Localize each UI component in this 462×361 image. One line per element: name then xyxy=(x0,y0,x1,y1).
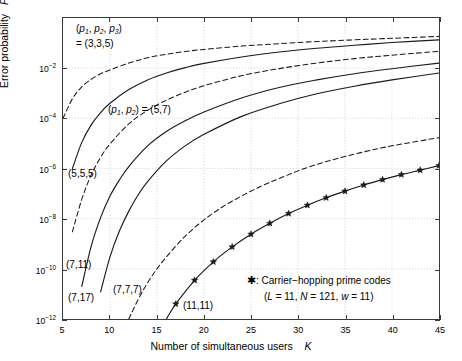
y-tick-mark xyxy=(62,118,67,119)
data-point-marker xyxy=(379,176,385,182)
y-tick-label: 10−8 xyxy=(39,214,56,224)
legend-line-2: (L = 11, N = 121, w = 11) xyxy=(247,289,391,305)
x-tick-mark-top xyxy=(440,17,441,22)
data-point-marker xyxy=(285,210,291,216)
annotation-555: (5,5,5) xyxy=(68,167,97,180)
x-tick-mark xyxy=(440,315,441,320)
x-tick-label: 15 xyxy=(137,326,177,335)
y-tick-mark-right xyxy=(435,68,440,69)
x-tick-mark xyxy=(157,315,158,320)
x-tick-label: 25 xyxy=(231,326,271,335)
y-tick-label: 10−2 xyxy=(39,63,56,73)
data-point-marker xyxy=(304,202,310,208)
x-tick-mark xyxy=(62,315,63,320)
x-axis-title: Number of simultaneous users K xyxy=(0,340,462,352)
x-tick-mark xyxy=(298,315,299,320)
annotation-p1p2: (p1, p2) = (5,7) xyxy=(108,103,171,118)
legend-label: Carrier−hopping prime codes xyxy=(262,275,391,286)
y-tick-mark xyxy=(62,68,67,69)
y-tick-mark xyxy=(62,169,67,170)
x-tick-mark-top xyxy=(204,17,205,22)
series-555 xyxy=(72,51,439,231)
x-tick-mark-top xyxy=(251,17,252,22)
y-tick-label: 10−4 xyxy=(39,113,56,123)
y-tick-mark-right xyxy=(435,118,440,119)
y-axis-title-text: Error probability xyxy=(0,14,10,88)
x-tick-label: 45 xyxy=(420,326,460,335)
x-tick-label: 30 xyxy=(278,326,318,335)
y-tick-mark-right xyxy=(435,320,440,321)
annotation-p1p2p3-line1: (p1, p2, p3) xyxy=(76,22,122,37)
data-point-marker xyxy=(361,182,367,188)
x-axis-title-text: Number of simultaneous users xyxy=(150,340,292,352)
x-tick-label: 10 xyxy=(89,326,129,335)
figure-root: 10−210−410−610−810−1010−12 5101520253035… xyxy=(0,0,462,361)
x-tick-mark xyxy=(346,315,347,320)
annotation-1111: (11,11) xyxy=(183,299,213,312)
x-tick-label: 40 xyxy=(373,326,413,335)
data-point-marker xyxy=(342,188,348,194)
y-tick-mark xyxy=(62,320,67,321)
x-tick-mark xyxy=(204,315,205,320)
legend: ✱: Carrier−hopping prime codes (L = 11, … xyxy=(247,272,391,305)
annotation-777: (7,7,7) xyxy=(113,283,142,296)
x-tick-mark-top xyxy=(157,17,158,22)
x-tick-label: 35 xyxy=(326,326,366,335)
x-tick-mark xyxy=(251,315,252,320)
annotation-711: (7,11) xyxy=(66,258,91,271)
y-tick-label: 10−10 xyxy=(36,265,56,275)
x-tick-mark-top xyxy=(346,17,347,22)
y-tick-mark xyxy=(62,219,67,220)
data-point-marker xyxy=(398,171,404,177)
y-axis-title-symbol: P xyxy=(0,0,10,5)
annotation-717: (7,17) xyxy=(68,291,94,304)
x-tick-mark xyxy=(109,315,110,320)
x-tick-mark xyxy=(393,315,394,320)
x-tick-mark-top xyxy=(62,17,63,22)
y-axis-title: Error probability Pe,soft xyxy=(0,0,11,88)
series-711 xyxy=(82,63,439,286)
y-tick-label: 10−12 xyxy=(36,315,56,325)
star-marker-icon: ✱ xyxy=(247,274,256,286)
x-tick-mark-top xyxy=(393,17,394,22)
data-point-marker xyxy=(436,162,442,168)
data-point-marker xyxy=(323,194,329,200)
y-tick-mark-right xyxy=(435,270,440,271)
x-axis-title-symbol: K xyxy=(305,340,312,352)
y-tick-mark-right xyxy=(435,219,440,220)
annotation-p1p2p3-line2: = (3,3,5) xyxy=(76,37,122,50)
x-tick-label: 5 xyxy=(42,326,82,335)
y-tick-label: 10−6 xyxy=(39,164,56,174)
x-tick-label: 20 xyxy=(184,326,224,335)
annotation-p1p2p3: (p1, p2, p3) = (3,3,5) xyxy=(76,22,122,50)
y-tick-mark-right xyxy=(435,169,440,170)
x-tick-mark-top xyxy=(298,17,299,22)
legend-line-1: ✱: Carrier−hopping prime codes xyxy=(247,272,391,289)
data-point-marker xyxy=(417,167,423,173)
